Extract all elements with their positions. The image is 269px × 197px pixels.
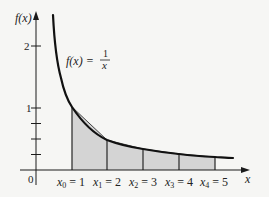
x-axis-label: x — [244, 172, 251, 186]
partition-label-x1: x1 = 2 — [92, 175, 121, 190]
origin-label: 0 — [28, 173, 34, 185]
partition-label-x4: x4 = 5 — [199, 175, 228, 190]
svg-text:1: 1 — [103, 48, 108, 59]
partition-label-x3: x3 = 4 — [164, 175, 193, 190]
svg-text:f(x) =: f(x) = — [66, 54, 94, 68]
partition-label-x2: x2 = 3 — [128, 175, 157, 190]
y-tick-label-1: 1 — [26, 102, 32, 114]
svg-text:x: x — [101, 59, 107, 71]
partition-label-x0: x0 = 1 — [56, 175, 85, 190]
y-tick-label-2: 2 — [24, 40, 30, 52]
integral-approximation-diagram: f(x) 2 1 0 x f(x) = 1 x x0 = 1 x1 = 2 x2… — [0, 0, 269, 197]
y-axis-label: f(x) — [15, 11, 32, 25]
partition-labels: x0 = 1 x1 = 2 x2 = 3 x3 = 4 x4 = 5 — [56, 175, 228, 190]
y-axis-arrow-icon — [33, 11, 39, 20]
function-label: f(x) = 1 x — [66, 48, 110, 71]
